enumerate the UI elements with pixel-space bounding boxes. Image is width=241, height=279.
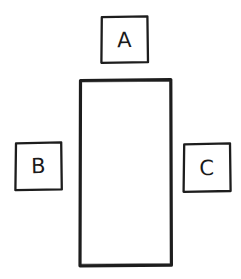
box-a-shape[interactable] bbox=[101, 16, 148, 62]
box-a-outline bbox=[101, 16, 148, 62]
diagram-canvas: A B C bbox=[0, 0, 241, 279]
box-b-outline bbox=[15, 142, 61, 190]
box-b-shape[interactable] bbox=[15, 142, 61, 190]
box-c-outline bbox=[184, 143, 231, 191]
box-c-shape[interactable] bbox=[184, 143, 231, 191]
main-rectangle-outline bbox=[80, 80, 171, 266]
main-rectangle-shape[interactable] bbox=[80, 80, 171, 266]
diagram-svg bbox=[0, 0, 241, 279]
